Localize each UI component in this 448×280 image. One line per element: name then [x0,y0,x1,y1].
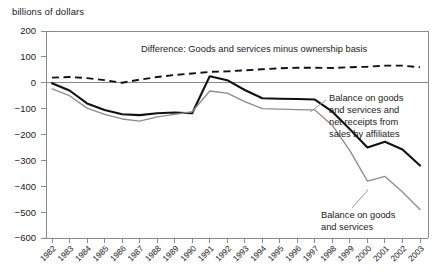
x-tick-label: 1992 [213,243,233,263]
y-tick-label: −300 [15,155,36,166]
annotation-goods-services-l2: and services [321,222,374,232]
x-tick-label: 1985 [90,243,110,263]
x-tick-label: 1996 [283,243,303,263]
x-tick-label: 1983 [55,243,75,263]
y-tick-label: −600 [15,232,36,243]
chart-container: 2001000−100−200−300−400−500−600 19821983… [0,0,448,280]
x-tick-label: 1988 [143,243,163,263]
y-tick-label: −200 [15,129,36,140]
x-tick-label: 1987 [125,243,145,263]
x-tick-label: 1995 [266,243,286,263]
x-tick-label: 1997 [301,243,321,263]
annotation-affiliates-l1: Balance on goods [329,93,404,103]
chart-annotations: Difference: Goods and services minus own… [141,44,404,232]
annotation-affiliates-l3: net receipts from [329,117,398,127]
annotation-affiliates-l2: and services and [329,105,399,115]
x-axis-tick-labels: 1982198319841985198619871988198919901991… [38,243,426,263]
y-axis-tick-labels: 2001000−100−200−300−400−500−600 [15,25,36,243]
annotation-difference: Difference: Goods and services minus own… [141,44,368,54]
x-tick-label: 1994 [248,243,268,263]
annotation-goods-services-l1: Balance on goods [321,210,396,220]
x-tick-label: 1991 [195,243,215,263]
y-tick-label: 100 [20,51,36,62]
x-tick-label: 2003 [406,243,426,263]
x-tick-label: 2002 [388,243,408,263]
y-tick-label: −500 [15,207,36,218]
x-tick-label: 1989 [160,243,180,263]
leader-line-goods-services [352,190,368,208]
x-tick-label: 2000 [353,243,373,263]
x-tick-label: 1993 [231,243,251,263]
x-tick-label: 1984 [73,243,93,263]
series-line-0 [52,66,420,83]
x-tick-label: 2001 [371,243,391,263]
x-tick-label: 1999 [336,243,356,263]
y-tick-label: −100 [15,103,36,114]
y-tick-label: 200 [20,25,36,36]
y-tick-label: 0 [31,77,36,88]
x-tick-label: 1982 [38,243,58,263]
annotation-affiliates-l4: sales by affiliates [329,129,400,139]
line-chart-svg: 2001000−100−200−300−400−500−600 19821983… [0,0,448,280]
x-tick-label: 1998 [318,243,338,263]
y-tick-label: −400 [15,181,36,192]
x-tick-label: 1986 [108,243,128,263]
x-tick-label: 1990 [178,243,198,263]
